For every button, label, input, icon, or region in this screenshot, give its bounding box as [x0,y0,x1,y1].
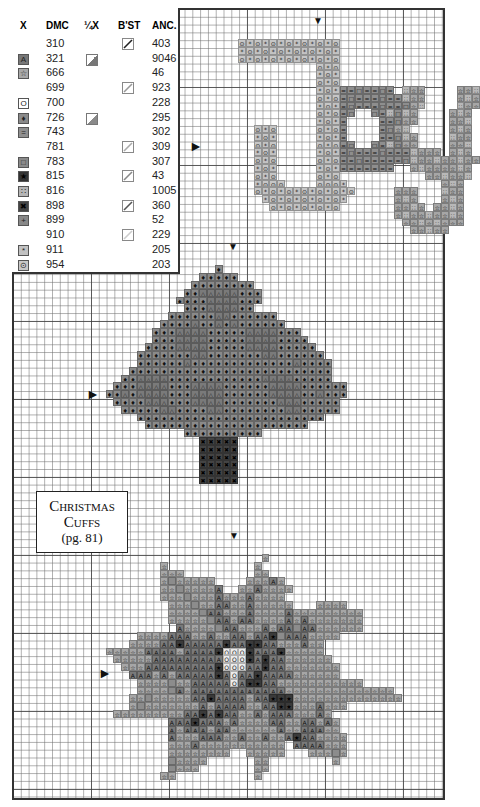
stitch-cell: * [254,164,262,172]
stitch-cell: ☆ [293,710,301,718]
stitch-cell: ☆ [285,687,293,695]
stitch-cell: ☆ [347,624,355,632]
stitch-cell: * [254,133,262,141]
stitch-cell: ☆ [410,94,418,102]
stitch-cell: △ [199,336,207,344]
stitch-cell: ☆ [418,226,426,234]
stitch-cell: ♦ [254,421,262,429]
stitch-cell: △ [269,343,277,351]
stitch-cell: ☆ [207,702,215,710]
stitch-cell: ☆ [410,117,418,125]
stitch-cell: A [230,640,238,648]
stitch-cell: A [207,655,215,663]
stitch-cell: ☆ [199,741,207,749]
stitch-cell: A [223,710,231,718]
stitch-cell: ✖ [230,437,238,445]
stitch-cell: ♦ [238,343,246,351]
stitch-cell: ♦ [176,367,184,375]
stitch-symbol-icon: O [18,98,29,109]
stitch-cell: = [363,86,371,94]
stitch-cell: ☆ [160,687,168,695]
stitch-cell: A [191,671,199,679]
stitch-cell: ∷ [457,102,465,110]
stitch-cell: ⊙ [254,141,262,149]
stitch-cell: ♦ [184,414,192,422]
stitch-cell: △ [269,390,277,398]
stitch-cell: A [301,624,309,632]
stitch-cell: ⊙ [324,133,332,141]
stitch-cell: ⊙ [254,39,262,47]
stitch-cell: = [371,148,379,156]
stitch-cell: A [262,687,270,695]
stitch-cell: ⊙ [332,172,340,180]
stitch-cell: ⊙ [332,94,340,102]
stitch-cell: ☆ [324,726,332,734]
stitch-cell: ✖ [199,476,207,484]
stitch-cell: * [277,187,285,195]
stitch-cell: ⊙ [254,125,262,133]
anchor-code: 309 [152,140,170,152]
stitch-cell: * [332,86,340,94]
stitch-cell: A [160,648,168,656]
stitch-cell: ♦ [262,367,270,375]
stitch-cell: ☆ [324,679,332,687]
stitch-cell: ⊙ [269,187,277,195]
stitch-cell: ☆ [254,609,262,617]
stitch-cell: A [238,702,246,710]
stitch-cell: △ [262,336,270,344]
stitch-cell: ♦ [168,382,176,390]
stitch-cell: ☆ [106,648,114,656]
stitch-cell: △ [176,343,184,351]
stitch-cell: A [277,655,285,663]
stitch-cell: △ [223,312,231,320]
stitch-cell: ☆ [332,757,340,765]
stitch-cell: ♦ [145,359,153,367]
stitch-cell: ♦ [191,429,199,437]
stitch-cell: ⊙ [301,39,309,47]
stitch-cell: ♦ [106,390,114,398]
center-arrow-right-icon: ► [98,666,112,680]
stitch-cell: ☆ [340,749,348,757]
stitch-cell: A [215,726,223,734]
stitch-cell: A [238,632,246,640]
stitch-cell: ♦ [215,367,223,375]
stitch-cell: △ [191,382,199,390]
stitch-cell: ♦ [191,414,199,422]
stitch-cell: * [269,47,277,55]
stitch-cell: A [269,702,277,710]
stitch-cell: △ [285,382,293,390]
stitch-cell: ♦ [223,281,231,289]
stitch-cell: * [340,187,348,195]
stitch-cell: ♦ [269,398,277,406]
anchor-code: 203 [152,258,170,270]
stitch-cell: ♦ [207,359,215,367]
stitch-cell: ☆ [129,710,137,718]
stitch-symbol-icon: ♦ [18,113,29,124]
stitch-cell: ♦ [199,281,207,289]
stitch-cell: * [269,148,277,156]
stitch-cell: ☆ [293,687,301,695]
stitch-cell: A [223,616,231,624]
stitch-cell: ☆ [457,180,465,188]
stitch-cell: = [340,164,348,172]
stitch-cell: ☆ [199,749,207,757]
stitch-cell: A [223,601,231,609]
stitch-cell: △ [215,304,223,312]
stitch-cell: ☆ [238,601,246,609]
stitch-cell: ♦ [160,414,168,422]
stitch-cell: ☆ [137,710,145,718]
stitch-cell: A [215,718,223,726]
stitch-cell: △ [293,398,301,406]
stitch-cell: ★ [199,710,207,718]
stitch-cell: ☆ [168,702,176,710]
stitch-cell: ⊙ [324,117,332,125]
stitch-cell: △ [184,328,192,336]
stitch-cell: ☆ [355,687,363,695]
stitch-cell: ♦ [137,406,145,414]
stitch-cell: A [184,671,192,679]
stitch-cell: ⊙ [262,148,270,156]
stitch-cell: ♦ [301,343,309,351]
stitch-cell: ♦ [199,320,207,328]
stitch-cell: ☆ [145,632,153,640]
stitch-cell: ☆ [207,593,215,601]
